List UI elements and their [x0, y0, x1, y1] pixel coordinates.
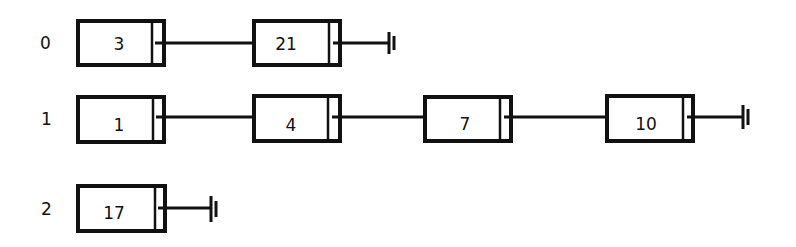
- node-value: 4: [286, 115, 297, 135]
- null-ground-icon: [743, 105, 748, 129]
- null-ground-icon: [211, 196, 216, 222]
- node-box: [254, 21, 340, 65]
- index-label-1: 1: [41, 109, 52, 129]
- linked-list-diagram: 0 1 2 3 21 1 4 7 10 17: [0, 0, 796, 247]
- node-value: 1: [114, 115, 125, 135]
- chain-row-0: [78, 21, 394, 65]
- node-value: 21: [275, 34, 297, 54]
- node-value: 10: [635, 114, 657, 134]
- node-value: 3: [114, 34, 125, 54]
- index-label-0: 0: [40, 33, 51, 53]
- index-label-2: 2: [41, 199, 52, 219]
- chain-row-2: [78, 186, 216, 231]
- node-value: 17: [103, 203, 125, 223]
- node-value: 7: [460, 114, 471, 134]
- null-ground-icon: [389, 32, 394, 54]
